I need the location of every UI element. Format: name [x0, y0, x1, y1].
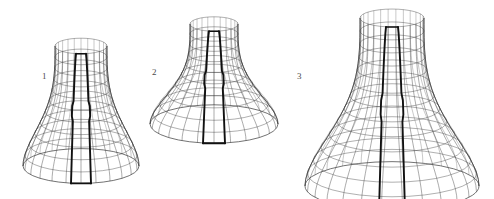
seam-edge [219, 31, 225, 143]
mesh-parallel [307, 149, 476, 196]
surface-silhouette [238, 24, 278, 124]
mesh-meridian [416, 12, 457, 170]
mesh-meridian [235, 28, 270, 134]
mesh-parallel [359, 47, 425, 66]
wireframe-figure-canvas [0, 0, 494, 199]
wireframe-surface-2 [150, 17, 278, 143]
mesh-parallel [321, 127, 463, 167]
mesh-meridian [152, 26, 191, 129]
mesh-meridian [327, 12, 368, 170]
seam-edge [203, 31, 209, 143]
surface-silhouette [424, 18, 479, 186]
surface-silhouette [305, 18, 360, 186]
mesh-meridian [106, 48, 137, 170]
mesh-meridian [25, 48, 56, 170]
wireframe-surface-1 [23, 38, 139, 183]
mesh-meridian [315, 14, 364, 175]
seam-edge [86, 54, 91, 184]
wireframe-surface-3 [305, 9, 479, 199]
mesh-parallel [354, 72, 430, 93]
figure-panel: 1 2 3 [0, 0, 494, 199]
mesh-parallel [313, 138, 471, 182]
mesh-meridian [237, 26, 276, 129]
figure-label-1: 1 [42, 72, 47, 81]
mesh-meridian [416, 24, 457, 199]
mesh-meridian [327, 24, 368, 199]
mesh-meridian [159, 28, 194, 134]
seam-edge [71, 54, 76, 184]
figure-label-3: 3 [297, 72, 302, 81]
mesh-parallel [344, 95, 440, 122]
mesh-meridian [420, 14, 469, 175]
mesh-parallel [337, 106, 447, 137]
figure-label-2: 2 [152, 68, 157, 77]
mesh-parallel [357, 60, 427, 80]
